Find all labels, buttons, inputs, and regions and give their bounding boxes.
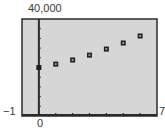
plot-frame (22, 19, 157, 116)
data-point-center (89, 54, 91, 56)
data-point-center (122, 42, 124, 44)
scatter-plot (0, 0, 165, 131)
data-point-center (139, 35, 141, 37)
data-point-center (55, 63, 57, 65)
data-point-center (105, 48, 107, 50)
data-point-center (72, 59, 74, 61)
data-point (36, 65, 41, 70)
